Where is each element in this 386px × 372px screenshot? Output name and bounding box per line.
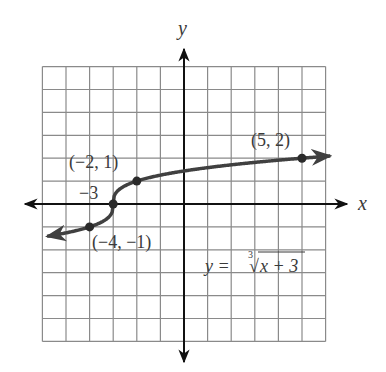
equation-radicand: x + 3 <box>259 256 298 276</box>
point-label-neg2-1: (−2, 1) <box>69 152 118 173</box>
equation-radical: √ <box>249 256 259 276</box>
x-axis-label: x <box>357 192 367 214</box>
point-label-neg3: −3 <box>79 183 98 203</box>
point-marker <box>298 154 307 163</box>
y-axis-label: y <box>176 17 187 40</box>
equation-lhs: y = <box>203 256 234 276</box>
point-marker <box>85 222 94 231</box>
point-label-neg4-neg1: (−4, −1) <box>92 232 151 253</box>
point-marker <box>109 200 118 209</box>
point-label-5-2: (5, 2) <box>251 130 290 151</box>
equation-label: y = 3 √ x + 3 <box>203 249 305 276</box>
point-marker <box>132 177 141 186</box>
graph: x y (−2, 1) −3 (−4, −1) (5, 2) y = 3 √ x… <box>0 0 386 372</box>
